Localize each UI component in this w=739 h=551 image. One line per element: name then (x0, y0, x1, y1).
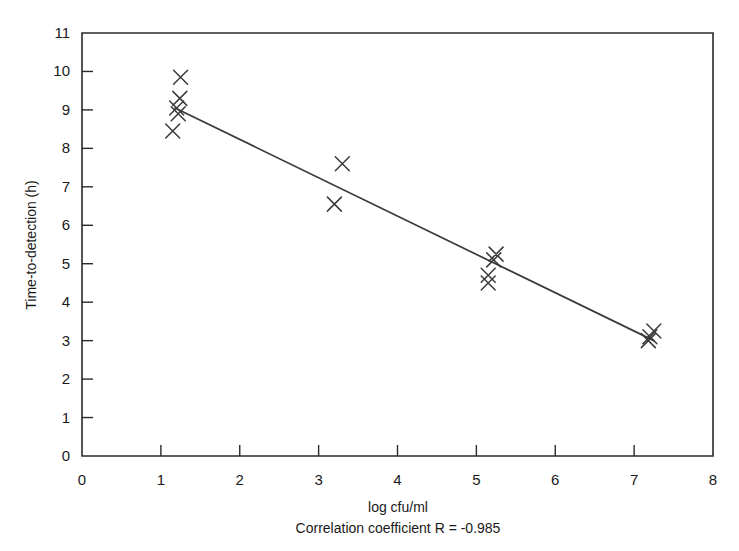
x-axis-tick-labels: 012345678 (78, 471, 717, 488)
x-tick-label: 8 (709, 471, 717, 488)
y-tick-label: 3 (62, 332, 70, 349)
data-point-marker (481, 276, 495, 290)
scatter-plot: 01234567891011 012345678 Time-to-detecti… (0, 0, 739, 551)
y-tick-label: 1 (62, 409, 70, 426)
x-tick-label: 4 (393, 471, 401, 488)
x-tick-label: 5 (472, 471, 480, 488)
regression-line (175, 108, 654, 341)
y-tick-label: 5 (62, 255, 70, 272)
y-axis-title: Time-to-detection (h) (23, 180, 39, 309)
chart-figure: 01234567891011 012345678 Time-to-detecti… (0, 0, 739, 551)
data-point-marker (173, 91, 187, 105)
y-tick-label: 4 (62, 293, 70, 310)
y-tick-label: 10 (53, 62, 70, 79)
correlation-caption: Correlation coefficient R = -0.985 (296, 520, 501, 536)
x-axis-ticks (161, 445, 634, 456)
data-point-marker (335, 157, 349, 171)
y-tick-label: 9 (62, 101, 70, 118)
data-points (166, 70, 661, 347)
y-tick-label: 0 (62, 447, 70, 464)
y-tick-label: 6 (62, 216, 70, 233)
y-tick-label: 11 (54, 24, 70, 41)
plot-frame-box (82, 33, 713, 456)
data-point-marker (327, 197, 341, 211)
x-tick-label: 2 (236, 471, 244, 488)
y-axis-tick-labels: 01234567891011 (53, 24, 70, 464)
x-tick-label: 6 (551, 471, 559, 488)
x-tick-label: 3 (314, 471, 322, 488)
y-tick-label: 7 (62, 178, 70, 195)
x-tick-label: 7 (630, 471, 638, 488)
plot-frame (82, 33, 713, 456)
data-point-marker (174, 70, 188, 84)
trend-line (175, 108, 654, 341)
x-axis-title: log cfu/ml (368, 499, 428, 515)
y-axis-ticks (82, 71, 93, 417)
y-tick-label: 8 (62, 139, 70, 156)
y-tick-label: 2 (62, 370, 70, 387)
data-point-marker (166, 124, 180, 138)
data-point-marker (489, 247, 503, 261)
data-point-marker (481, 268, 495, 282)
x-tick-label: 0 (78, 471, 86, 488)
x-tick-label: 1 (157, 471, 165, 488)
